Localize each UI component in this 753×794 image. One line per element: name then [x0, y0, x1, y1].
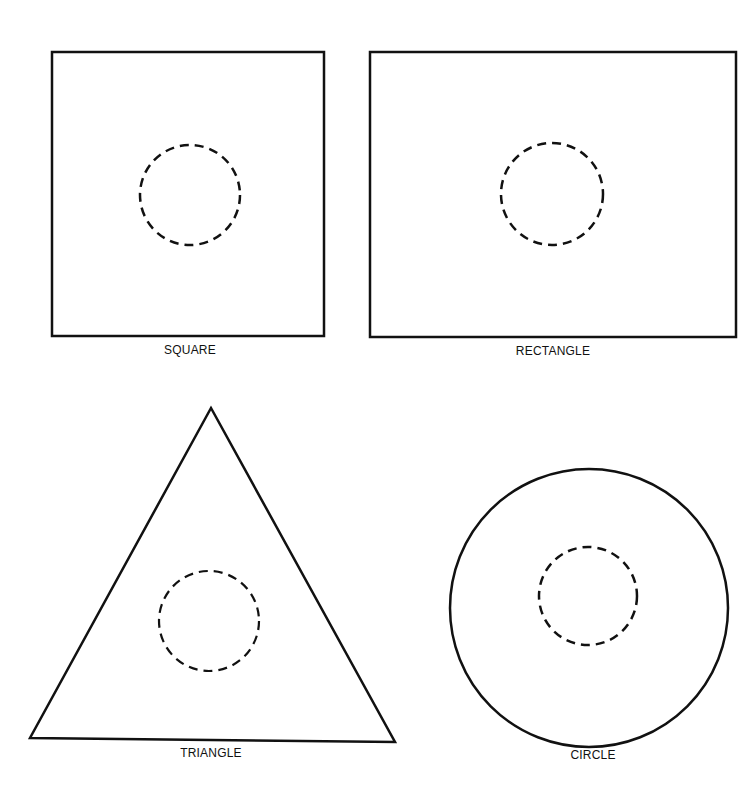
- triangle-outline: [30, 408, 395, 742]
- triangle-label: TRIANGLE: [180, 746, 242, 760]
- square-dashed-circle: [140, 145, 240, 245]
- square-shape: [52, 52, 324, 336]
- rectangle-label: RECTANGLE: [516, 344, 590, 358]
- square-outline: [52, 52, 324, 336]
- rectangle-shape: [370, 52, 736, 337]
- circle-shape: [450, 469, 728, 747]
- circle-dashed-circle: [539, 547, 637, 645]
- triangle-shape: [30, 408, 395, 742]
- rectangle-outline: [370, 52, 736, 337]
- circle-label: CIRCLE: [570, 748, 615, 762]
- triangle-dashed-circle: [159, 571, 259, 671]
- circle-outline: [450, 469, 728, 747]
- rectangle-dashed-circle: [501, 143, 603, 245]
- square-label: SQUARE: [164, 343, 216, 357]
- shapes-diagram: [0, 0, 753, 794]
